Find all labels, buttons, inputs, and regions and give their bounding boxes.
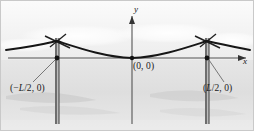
y-axis-label: y	[134, 5, 138, 14]
x-axis-label: x	[243, 57, 247, 66]
left-label-suffix: /2, 0)	[24, 83, 45, 93]
right-pole-point-marker	[205, 56, 210, 61]
left-pole-point-label: (−L/2, 0)	[10, 84, 45, 94]
catenary-figure: y x (0, 0) (−L/2, 0) (L/2, 0)	[0, 0, 254, 131]
left-pole-point-marker	[55, 56, 60, 61]
origin-point-label: (0, 0)	[133, 62, 154, 72]
right-label-suffix: /2, 0)	[212, 83, 233, 93]
right-pole-point-label: (L/2, 0)	[203, 84, 232, 94]
left-label-prefix: (−	[10, 83, 19, 93]
origin-point-marker	[130, 56, 134, 60]
figure-canvas	[0, 0, 254, 131]
